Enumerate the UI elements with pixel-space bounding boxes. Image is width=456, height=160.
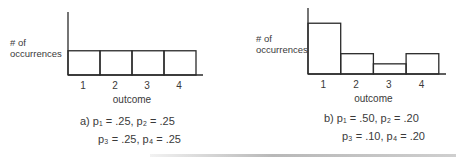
x-axis-label: outcome	[113, 94, 152, 105]
chart-b: 1234outcome# ofoccurrencesb) p₁ = .50, p…	[256, 8, 446, 142]
caption-line: p₃ = .25, p₄ = .25	[98, 133, 181, 145]
y-axis-label: # of	[256, 33, 272, 44]
bar-4	[406, 54, 439, 74]
x-tick-label: 3	[144, 80, 150, 91]
page-edge-divider	[150, 154, 456, 157]
y-axis-label: # of	[10, 37, 26, 48]
x-tick-label: 1	[80, 80, 86, 91]
bar-4	[164, 51, 196, 75]
bar-1	[68, 51, 100, 75]
y-axis-label: occurrences	[10, 48, 62, 59]
y-axis-label: occurrences	[256, 44, 308, 55]
bar-2	[341, 54, 374, 74]
caption-line: a) p₁ = .25, p₂ = .25	[80, 115, 175, 127]
x-tick-label: 2	[353, 79, 359, 90]
bar-3	[132, 51, 164, 75]
x-tick-label: 4	[176, 80, 182, 91]
bar-3	[373, 64, 406, 74]
caption-line: b) p₁ = .50, p₂ = .20	[324, 112, 419, 124]
x-tick-label: 4	[419, 79, 425, 90]
figure: 1234outcome# ofoccurrencesa) p₁ = .25, p…	[0, 0, 456, 160]
caption-line: p₃ = .10, p₄ = .20	[342, 130, 425, 142]
x-tick-label: 3	[386, 79, 392, 90]
x-tick-label: 1	[321, 79, 327, 90]
x-tick-label: 2	[112, 80, 118, 91]
chart-a: 1234outcome# ofoccurrencesa) p₁ = .25, p…	[10, 12, 203, 145]
bar-2	[100, 51, 132, 75]
bar-1	[308, 23, 341, 74]
x-axis-label: outcome	[354, 93, 393, 104]
